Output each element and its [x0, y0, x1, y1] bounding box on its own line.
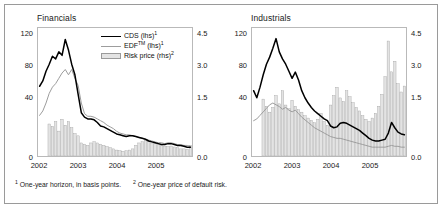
- footnote-2: 2 One-year price of default risk.: [133, 181, 227, 188]
- ytick-left-120-financials: 120: [9, 29, 33, 38]
- figure-panel: Financials 120 80 40 0 4.5 3.0 1.5 0.0 2…: [4, 4, 438, 204]
- xtick-2005-financials: 2005: [139, 161, 173, 170]
- ytick-left-40-financials: 40: [9, 93, 33, 102]
- legend-line-grey-icon: [101, 43, 121, 50]
- plot-area-industrials: [251, 27, 407, 157]
- ytick-right-00-industrials: 0.0: [411, 153, 437, 162]
- legend-item-risk-price: Risk price (rhs)2: [101, 51, 174, 61]
- ytick-right-15-industrials: 1.5: [411, 93, 437, 102]
- xtick-2003-financials: 2003: [61, 161, 95, 170]
- xtick-2004-financials: 2004: [100, 161, 134, 170]
- legend-item-edf: EDFTM (lhs)1: [101, 41, 174, 51]
- ytick-left-80-financials: 80: [9, 61, 33, 70]
- footnote-1: 1 One-year horizon, in basis points.: [15, 181, 121, 188]
- ytick-right-15-financials: 1.5: [197, 93, 223, 102]
- xtick-2002-industrials: 2002: [236, 161, 270, 170]
- ytick-right-45-financials: 4.5: [197, 29, 223, 38]
- ytick-left-120-industrials: 120: [223, 29, 247, 38]
- chart-title-industrials: Industrials: [251, 13, 291, 23]
- legend-line-dark-icon: [101, 33, 121, 40]
- xtick-2004-industrials: 2004: [314, 161, 348, 170]
- ytick-right-00-financials: 0.0: [197, 153, 223, 162]
- ytick-left-40-industrials: 40: [223, 93, 247, 102]
- ytick-right-30-financials: 3.0: [197, 61, 223, 70]
- footnotes: 1 One-year horizon, in basis points. 2 O…: [15, 181, 425, 188]
- legend-label-risk-price: Risk price (rhs)2: [124, 51, 174, 61]
- plot-svg-industrials: [252, 28, 406, 156]
- ytick-right-30-industrials: 3.0: [411, 61, 437, 70]
- chart-title-financials: Financials: [37, 13, 76, 23]
- legend-label-edf: EDFTM (lhs)1: [124, 41, 164, 51]
- chart-industrials: Industrials 120 80 40 0 4.5 3.0 1.5 0.0 …: [223, 11, 435, 177]
- ytick-left-80-industrials: 80: [223, 61, 247, 70]
- xtick-2003-industrials: 2003: [275, 161, 309, 170]
- xtick-2005-industrials: 2005: [353, 161, 387, 170]
- chart-legend: CDS (lhs)1 EDFTM (lhs)1 Risk price (rhs)…: [101, 31, 174, 61]
- legend-bar-grey-icon: [101, 53, 121, 59]
- chart-financials: Financials 120 80 40 0 4.5 3.0 1.5 0.0 2…: [9, 11, 221, 177]
- xtick-2002-financials: 2002: [22, 161, 56, 170]
- ytick-right-45-industrials: 4.5: [411, 29, 437, 38]
